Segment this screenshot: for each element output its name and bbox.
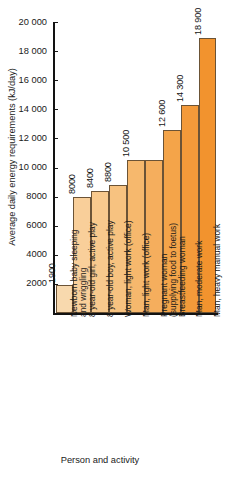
x-category-label: Breastfeeding woman: [178, 189, 187, 317]
x-category-label-line: 8 year-old girl, active play: [88, 189, 97, 317]
x-axis-title: Person and activity: [0, 455, 200, 465]
y-tick-label: 2000: [26, 278, 47, 289]
x-axis-category-labels: Newborn baby sleepingand wriggling8 year…: [56, 317, 217, 445]
y-axis-tick-labels: 200040006000800010 00012 00014 00016 000…: [0, 0, 54, 320]
y-tick-label: 10 000: [19, 162, 47, 173]
y-tick-label: 14 000: [19, 104, 47, 115]
x-category-label: Man, light work (office): [142, 189, 151, 317]
x-category-label: 8 year-old boy, active play: [106, 189, 115, 317]
y-tick-label: 16 000: [19, 75, 47, 86]
y-tick-label: 4000: [26, 249, 47, 260]
x-category-label-line: Man, moderate work: [195, 189, 204, 317]
bar-value-label: 8800: [103, 162, 113, 182]
x-category-label: 8 year-old girl, active play: [88, 189, 97, 317]
x-category-label-line: Man, heavy manual work: [213, 189, 222, 317]
x-category-label-line: Breastfeeding woman: [178, 189, 187, 317]
bar-value-label: 10 500: [121, 130, 131, 157]
x-category-label: Man, heavy manual work: [213, 189, 222, 317]
x-category-label-line: Man, light work (office): [142, 189, 151, 317]
y-tick-label: 12 000: [19, 133, 47, 144]
bar-chart: Average daily energy requirements (kJ/da…: [0, 0, 230, 477]
x-category-label: Newborn baby sleepingand wriggling: [70, 189, 88, 317]
x-category-label: Man, moderate work: [195, 189, 204, 317]
x-category-label-line: 8 year-old boy, active play: [106, 189, 115, 317]
bar-value-label: 12 600: [157, 99, 167, 126]
y-tick-label: 18 000: [19, 46, 47, 57]
bar-value-label: 14 300: [175, 75, 185, 102]
y-tick-label: 20 000: [19, 17, 47, 28]
x-category-label: Woman, light work (office): [124, 189, 133, 317]
x-category-label: Pregnant woman(supplying food to foetus): [160, 189, 178, 317]
y-tick-label: 6000: [26, 220, 47, 231]
bar-value-label: 1900: [47, 264, 57, 284]
x-category-label-line: Woman, light work (office): [124, 189, 133, 317]
bar-value-label: 8400: [85, 168, 95, 188]
bar-value-label: 18 900: [193, 8, 203, 35]
y-tick-label: 8000: [26, 191, 47, 202]
